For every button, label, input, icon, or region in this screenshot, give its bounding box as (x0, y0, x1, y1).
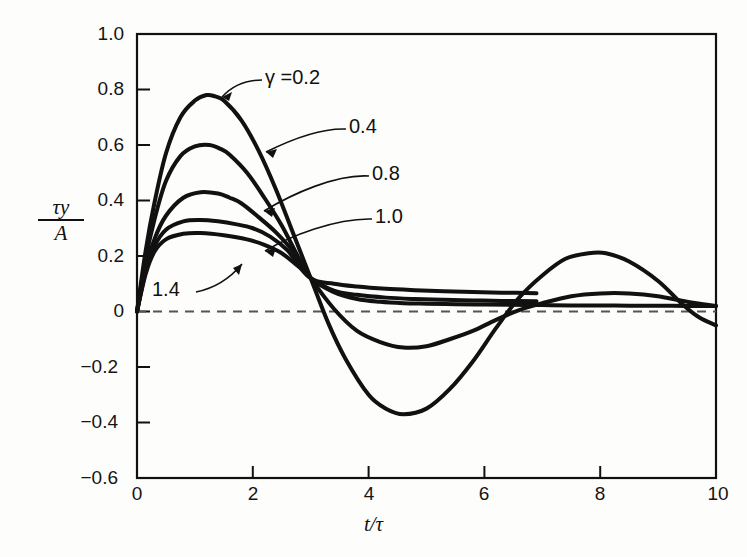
leader-line-0-4 (266, 129, 346, 152)
y-tick-label-m0-6: −0.6 (46, 467, 118, 489)
y-tick-label-m0-2: −0.2 (46, 356, 118, 378)
curve-1-4 (137, 233, 537, 312)
x-tick-label-4: 4 (347, 483, 391, 505)
y-axis-title-numerator: τy (38, 196, 84, 219)
x-tick-label-2: 2 (231, 483, 275, 505)
arrowhead-1-4 (233, 264, 242, 275)
y-tick-label-m0-4: −0.4 (46, 411, 118, 433)
x-tick-label-10: 10 (696, 483, 740, 505)
x-tick-label-8: 8 (578, 483, 622, 505)
y-tick-label-0-8: 0.8 (52, 78, 124, 100)
x-tick-label-0: 0 (115, 483, 159, 505)
y-tick-label-0-6: 0.6 (52, 134, 124, 156)
curve-0-4 (137, 145, 716, 348)
x-axis-ticks (137, 466, 716, 478)
y-tick-label-1-0: 1.0 (52, 23, 124, 45)
x-axis-title: t/τ (0, 512, 747, 537)
figure-canvas: 1.0 0.8 0.6 0.4 0.2 0 −0.2 −0.4 −0.6 0 2… (0, 0, 747, 557)
y-axis-title: τy A (38, 196, 84, 244)
annotation-layer (196, 80, 372, 292)
y-axis-title-denominator: A (38, 219, 84, 244)
x-tick-label-6: 6 (462, 483, 506, 505)
curve-label-0-8: 0.8 (372, 162, 400, 185)
y-tick-label-0-2: 0.2 (52, 245, 124, 267)
y-tick-label-0: 0 (52, 300, 124, 322)
curve-label-0-4: 0.4 (349, 115, 377, 138)
curve-label-1-0: 1.0 (375, 205, 403, 228)
curve-0-2 (137, 95, 716, 414)
curve-label-gamma-0-2: γ =0.2 (265, 66, 320, 89)
curve-label-1-4: 1.4 (152, 278, 180, 301)
curve-layer (137, 95, 716, 414)
